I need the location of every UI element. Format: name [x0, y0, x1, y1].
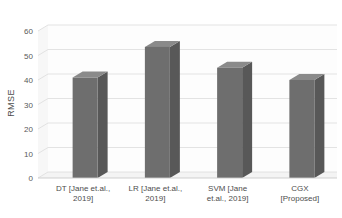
bar-side-face — [242, 62, 252, 178]
chart-canvas: 0102030405060 RMSE DT [Jane et.al.,2019]… — [0, 0, 342, 218]
bar-side-face — [98, 72, 108, 178]
rmse-bar-chart: 0102030405060 RMSE DT [Jane et.al.,2019]… — [0, 0, 342, 218]
y-axis-tick-label: 0 — [29, 174, 34, 183]
bar-front-face — [289, 80, 314, 178]
y-axis-title: RMSE — [6, 89, 16, 117]
bar-side-face — [314, 74, 324, 178]
x-axis-category-label: [Proposed] — [281, 194, 320, 203]
bar-front-face — [217, 68, 242, 178]
x-axis-category-label: CGX — [291, 184, 309, 193]
x-axis-category-label: SVM [Jane — [208, 184, 248, 193]
bar-front-face — [145, 47, 170, 178]
y-axis-tick-label: 50 — [24, 52, 33, 61]
x-axis-category-label: 2019] — [145, 194, 165, 203]
y-axis-tick-label: 10 — [24, 150, 33, 159]
x-axis-category-label: et.al., 2019] — [207, 194, 249, 203]
bar — [145, 41, 180, 178]
bar-side-face — [170, 41, 180, 178]
bar — [217, 62, 252, 178]
bar-front-face — [73, 78, 98, 178]
y-axis-tick-label: 30 — [24, 101, 33, 110]
y-axis-tick-label: 60 — [24, 27, 33, 36]
x-axis-category-label: LR [Jane et.al., — [128, 184, 182, 193]
y-axis-tick-label: 40 — [24, 76, 33, 85]
bar — [73, 72, 108, 178]
x-axis-category-label: 2019] — [73, 194, 93, 203]
y-axis-title-text: RMSE — [6, 89, 16, 117]
bar — [289, 74, 324, 178]
y-axis-tick-label: 20 — [24, 125, 33, 134]
x-axis-category-label: DT [Jane et.al., — [56, 184, 110, 193]
